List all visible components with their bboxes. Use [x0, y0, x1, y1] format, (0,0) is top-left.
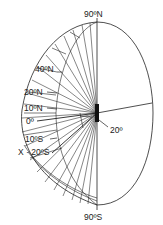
label-south-pole: 90ºS — [84, 213, 102, 222]
label-10s: 10ºS — [25, 135, 43, 144]
label-equator: 0º — [26, 117, 34, 126]
center-hub — [95, 104, 99, 122]
label-20s: X · 20ºS — [18, 148, 49, 157]
right-plane-line — [97, 103, 152, 113]
label-10n: 10ºN — [24, 104, 43, 113]
label-north-pole: 90ºN — [84, 10, 103, 19]
label-40n: 40ºN — [35, 65, 54, 74]
label-angle: 20º — [110, 126, 123, 135]
radial-lines — [22, 23, 97, 204]
label-20n: 20ºN — [24, 88, 43, 97]
globe-outline-right — [97, 22, 153, 205]
